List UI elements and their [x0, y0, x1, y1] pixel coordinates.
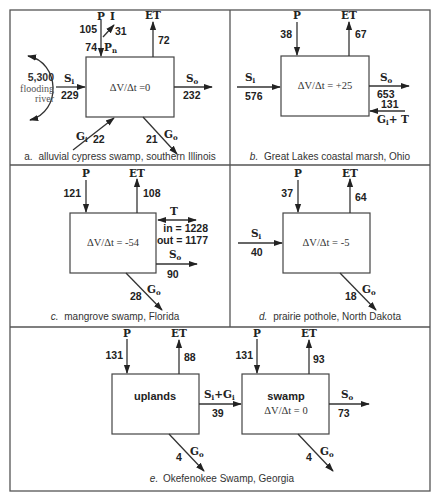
panel-a-p-value: 105 [79, 23, 97, 35]
panel-e-swamp-p-value: 131 [235, 349, 253, 361]
panel-a-si-value: 229 [61, 89, 79, 101]
panel-b-git-label: Gi+ T [377, 113, 409, 127]
panel-c-et-value: 108 [143, 187, 161, 199]
panel-c-caption: c. mangrove swamp, Florida [51, 311, 180, 322]
panel-b-git-value: 131 [381, 98, 399, 110]
panel-e-swamp-so-value: 73 [338, 407, 350, 419]
panel-b-caption: b. Great Lakes coastal marsh, Ohio [250, 151, 411, 162]
panel-a-interception-arrow [103, 25, 114, 37]
panel-a-go-value: 21 [146, 133, 158, 145]
panel-a-gi-label: Gi [76, 130, 88, 144]
panel-e-swamp-change: ΔV/Δt = 0 [264, 405, 307, 416]
panel-e-swamp-box [242, 374, 329, 434]
panel-d-et-label: ET [342, 167, 358, 179]
panel-a-caption: a. alluvial cypress swamp, southern Illi… [24, 151, 215, 162]
panel-d-p-label: P [294, 167, 302, 179]
panel-c-t-in: in = 1228 [163, 222, 208, 234]
panel-e-uplands-box [112, 374, 199, 434]
panel-d: ΔV/Δt = -5 P 37 ET 64 Si 40 18 Go d. pra… [238, 167, 401, 322]
panel-d-et-value: 64 [355, 191, 367, 203]
panel-e-uplands-et-label: ET [171, 327, 187, 339]
panel-a-i-value: 31 [115, 25, 127, 37]
panel-e-swamp-go-value: 4 [306, 451, 312, 463]
panel-e-uplands-p-value: 131 [105, 349, 123, 361]
panel-e-swamp-et-label: ET [301, 327, 317, 339]
panel-e-transfer-label: Si+Gi [204, 388, 235, 402]
panel-b-et-value: 67 [355, 28, 367, 40]
panel-a-so-value: 232 [183, 89, 201, 101]
panel-e-transfer-value: 39 [212, 407, 224, 419]
panel-e-swamp-p-label: P [253, 327, 261, 339]
panel-c-go-value: 28 [130, 290, 142, 302]
panel-e: uplands P 131 ET 88 4 Go Si+Gi 39 swamp … [105, 327, 369, 484]
panel-d-si-label: Si [251, 227, 262, 241]
panel-e-swamp-label: swamp [267, 390, 305, 402]
panel-a: ΔV/Δt =0 P 105 I 31 74 Pn ET 72 5,300 fl… [20, 9, 216, 162]
panel-b-si-value: 576 [245, 90, 263, 102]
panel-d-p-value: 37 [281, 187, 293, 199]
panel-d-go-label: Go [362, 283, 376, 297]
panel-a-go-label: Go [164, 128, 178, 142]
panel-a-change: ΔV/Δt =0 [110, 82, 151, 93]
water-budget-diagram: ΔV/Δt =0 P 105 I 31 74 Pn ET 72 5,300 fl… [0, 0, 438, 500]
panel-c-t-out: out = 1177 [157, 234, 208, 246]
panel-d-si-value: 40 [251, 246, 263, 258]
panel-e-uplands-et-value: 88 [184, 351, 196, 363]
panel-e-swamp-so-label: So [341, 388, 354, 402]
panel-b-et-label: ET [341, 9, 357, 21]
panel-a-si-label: Si [64, 72, 75, 86]
panel-e-caption: e. Okefenokee Swamp, Georgia [150, 473, 295, 484]
panel-d-caption: d. prairie pothole, North Dakota [259, 311, 401, 322]
panel-a-et-label: ET [145, 9, 161, 21]
panel-b: ΔV/Δt = +25 P 38 ET 67 Si 576 So 653 131… [237, 9, 411, 162]
panel-c-go-label: Go [147, 283, 161, 297]
panel-b-p-label: P [293, 9, 301, 21]
panel-a-river-value: 5,300 [28, 71, 54, 83]
panel-c: ΔV/Δt = -54 P 121 ET 108 T in = 1228 out… [51, 167, 208, 322]
panel-c-t-label: T [170, 205, 178, 217]
panel-e-swamp-go-label: Go [320, 445, 334, 459]
panel-e-uplands-go-value: 4 [176, 451, 182, 463]
panel-b-si-label: Si [245, 71, 256, 85]
panel-b-so-label: So [380, 71, 393, 85]
panel-d-change: ΔV/Δt = -5 [303, 237, 350, 248]
panel-c-so-label: So [169, 248, 182, 262]
panel-c-et-label: ET [129, 167, 145, 179]
panel-a-so-label: So [186, 72, 199, 86]
panel-d-go-value: 18 [345, 290, 357, 302]
panel-e-uplands-go-label: Go [190, 445, 204, 459]
panel-b-p-value: 38 [280, 28, 292, 40]
panel-a-river-line2: river [35, 93, 55, 104]
panel-c-so-value: 90 [167, 268, 179, 280]
panel-a-pn-value: 74 [85, 41, 97, 53]
panel-b-change: ΔV/Δt = +25 [298, 80, 353, 91]
panel-c-p-label: P [82, 167, 90, 179]
panel-a-gi-value: 22 [93, 133, 105, 145]
panel-a-i-label: I [110, 10, 115, 22]
panel-e-uplands-label: uplands [134, 390, 176, 402]
panel-c-p-value: 121 [63, 187, 81, 199]
panel-a-et-value: 72 [158, 34, 170, 46]
panel-a-pn-label: Pn [104, 41, 117, 55]
panel-a-p-label: P [97, 10, 105, 22]
panel-c-change: ΔV/Δt = -54 [87, 237, 140, 248]
panel-e-uplands-p-label: P [123, 327, 131, 339]
panel-e-swamp-et-value: 93 [313, 353, 325, 365]
